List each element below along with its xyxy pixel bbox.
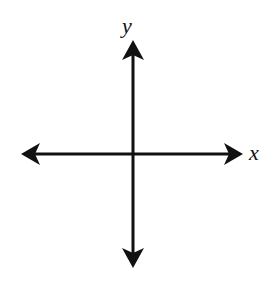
coordinate-axes-diagram: y x [0,0,273,283]
y-axis-label: y [120,13,132,38]
x-axis-label: x [248,140,259,165]
